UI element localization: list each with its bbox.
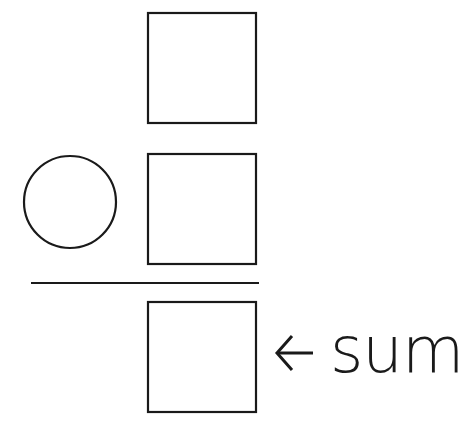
- addition-diagram: sum: [0, 0, 472, 434]
- sum-box[interactable]: [148, 302, 256, 412]
- left-arrow-icon: [277, 336, 313, 370]
- sum-label: sum: [330, 318, 463, 382]
- addend-top-box[interactable]: [148, 13, 256, 123]
- operator-circle[interactable]: [24, 156, 116, 248]
- addend-bottom-box[interactable]: [148, 154, 256, 264]
